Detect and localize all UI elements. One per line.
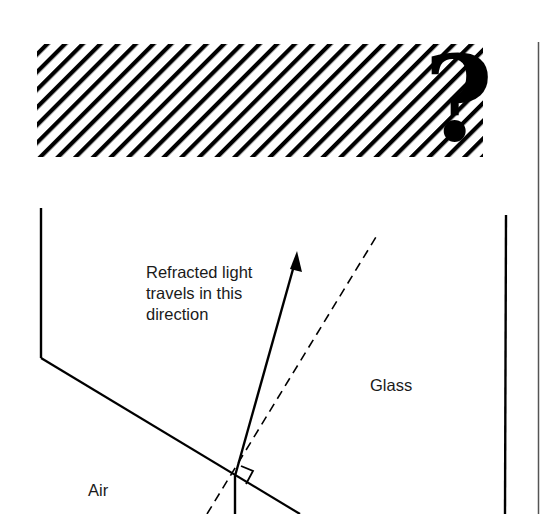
glass-block-right-edge xyxy=(505,215,506,514)
refracted-light-label: Refracted light travels in this directio… xyxy=(146,262,296,325)
glass-label: Glass xyxy=(370,375,412,396)
hatched-banner xyxy=(37,44,483,157)
refracted-label-line-2: travels in this xyxy=(146,283,296,304)
refracted-label-line-1: Refracted light xyxy=(146,262,296,283)
air-label: Air xyxy=(88,480,108,501)
right-angle-marker xyxy=(241,466,253,484)
refracted-label-line-3: direction xyxy=(146,304,296,325)
question-mark-icon: ? xyxy=(424,40,493,158)
